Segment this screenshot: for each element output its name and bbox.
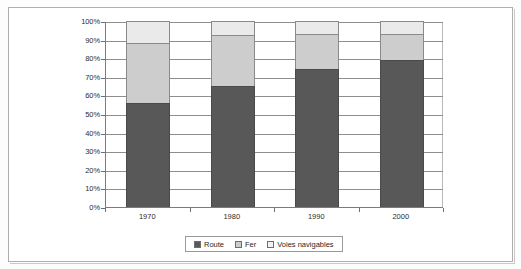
x-axis-tick: [443, 208, 444, 212]
y-axis-tick-label: 60%: [60, 91, 100, 100]
bar-1990[interactable]: [295, 21, 339, 207]
x-axis-tick-label: 1970: [117, 212, 177, 221]
bar-segment-route[interactable]: [380, 60, 424, 207]
x-axis-tick-label: 1990: [286, 212, 346, 221]
bar-1980[interactable]: [211, 21, 255, 207]
y-axis-tick-label: 70%: [60, 73, 100, 82]
chart-legend: RouteFerVoies navigables: [185, 236, 343, 252]
legend-swatch-route-icon: [194, 241, 201, 248]
chart-screenshot: 0%10%20%30%40%50%60%70%80%90%100% 197019…: [0, 0, 521, 269]
legend-swatch-voies-icon: [267, 241, 274, 248]
bar-segment-route[interactable]: [211, 86, 255, 207]
stacked-bar-chart: 0%10%20%30%40%50%60%70%80%90%100% 197019…: [0, 0, 521, 269]
legend-item-route[interactable]: Route: [194, 240, 224, 249]
y-axis-tick-label: 20%: [60, 166, 100, 175]
bar-segment-voies[interactable]: [211, 21, 255, 35]
legend-label: Voies navigables: [277, 240, 333, 249]
x-axis-tick: [105, 208, 106, 212]
x-axis-tick: [190, 208, 191, 212]
plot-area: [105, 22, 443, 208]
x-axis-tick: [274, 208, 275, 212]
y-axis-tick-label: 0%: [60, 203, 100, 212]
legend-item-fer[interactable]: Fer: [235, 240, 256, 249]
bar-segment-route[interactable]: [126, 103, 170, 207]
legend-label: Route: [204, 240, 224, 249]
y-axis-tick-label: 100%: [60, 17, 100, 26]
bar-2000[interactable]: [380, 21, 424, 207]
bar-segment-fer[interactable]: [380, 34, 424, 60]
bar-segment-fer[interactable]: [295, 34, 339, 69]
bar-segment-voies[interactable]: [126, 21, 170, 43]
x-axis-tick-label: 1980: [202, 212, 262, 221]
bar-segment-voies[interactable]: [380, 21, 424, 34]
legend-swatch-fer-icon: [235, 241, 242, 248]
x-axis-tick-label: 2000: [371, 212, 431, 221]
bar-segment-fer[interactable]: [126, 43, 170, 103]
bar-segment-fer[interactable]: [211, 35, 255, 86]
y-axis-tick-label: 90%: [60, 36, 100, 45]
legend-label: Fer: [245, 240, 256, 249]
legend-item-voies[interactable]: Voies navigables: [267, 240, 333, 249]
bar-segment-voies[interactable]: [295, 21, 339, 34]
y-axis-tick-label: 10%: [60, 184, 100, 193]
y-axis-tick-label: 40%: [60, 129, 100, 138]
y-axis-tick-label: 80%: [60, 54, 100, 63]
y-axis-tick-label: 30%: [60, 147, 100, 156]
bar-segment-route[interactable]: [295, 69, 339, 207]
bar-1970[interactable]: [126, 21, 170, 207]
x-axis-tick: [359, 208, 360, 212]
y-axis-tick-label: 50%: [60, 110, 100, 119]
